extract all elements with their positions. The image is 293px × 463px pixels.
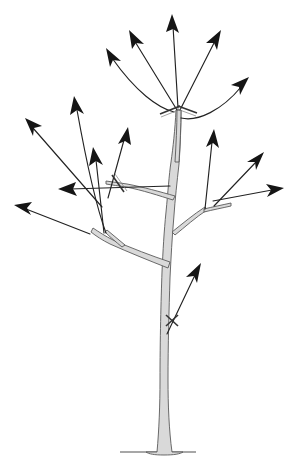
branch-right-main <box>172 207 207 235</box>
arrow-head-icon <box>25 118 42 136</box>
arrow-trunk-lower <box>167 263 201 334</box>
arrow-mid-left-tall <box>70 96 106 233</box>
arrow-right-horizontal <box>213 184 284 201</box>
arrow-upper-left-curved <box>106 48 174 112</box>
arrow-head-icon <box>166 14 179 33</box>
arrow-head-icon <box>106 48 121 67</box>
arrow-upper-right-inner <box>180 30 221 110</box>
growth-arrows-group <box>14 14 284 334</box>
arrow-head-icon <box>231 77 249 95</box>
tree-pruning-figure <box>0 0 293 463</box>
arrow-far-left-low <box>14 202 90 234</box>
arrow-top-center <box>166 14 179 108</box>
arrow-upper-left-inner <box>129 30 177 110</box>
arrow-head-icon <box>14 202 32 215</box>
arrow-right-vertical <box>205 129 219 209</box>
arrow-upper-right-outer <box>181 77 249 119</box>
branch-left-upper <box>106 181 175 200</box>
arrow-head-icon <box>129 30 144 49</box>
arrow-head-icon <box>118 127 131 145</box>
arrow-right-upper-diagonal <box>214 152 264 206</box>
arrow-head-icon <box>206 129 219 148</box>
branch-right-spur <box>204 203 231 212</box>
tree-diagram-canvas <box>0 0 293 463</box>
arrow-head-icon <box>186 263 201 283</box>
arrow-head-icon <box>206 30 221 50</box>
branch-left-main <box>91 228 170 268</box>
arrow-head-icon <box>247 152 264 170</box>
